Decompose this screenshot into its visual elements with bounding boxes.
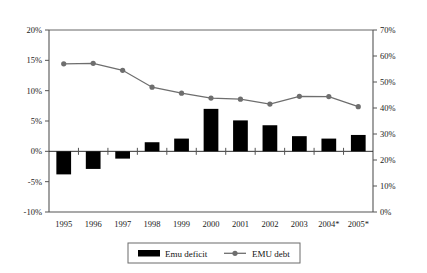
x-axis-label-2002: 2002 (261, 219, 278, 229)
right-axis-tick-label: 30% (380, 129, 396, 139)
debt-marker-2001 (238, 97, 243, 102)
debt-marker-2000 (208, 96, 213, 101)
x-axis-label-2001: 2001 (232, 219, 249, 229)
right-axis-tick-label: 10% (380, 181, 396, 191)
x-axis-label-2005-est: 2005* (348, 219, 369, 229)
x-axis-label-1997: 1997 (114, 219, 131, 229)
emu-deficit-debt-chart: 20%15%10%5%0%-5%-10%70%60%50%40%30%20%10… (0, 0, 427, 273)
x-axis-label-2000: 2000 (203, 219, 220, 229)
debt-marker-2004-est (326, 94, 331, 99)
right-axis-tick-label: 20% (380, 155, 396, 165)
chart-container: 20%15%10%5%0%-5%-10%70%60%50%40%30%20%10… (0, 0, 427, 273)
bar-1998 (145, 142, 160, 151)
x-axis-label-1995: 1995 (55, 219, 72, 229)
bar-2001 (233, 120, 248, 151)
legend-swatch-bar (138, 250, 160, 257)
left-axis-tick-label: 15% (26, 55, 42, 65)
chart-legend: Emu deficitEMU debt (128, 243, 300, 263)
bar-2004-est (321, 139, 336, 152)
x-axis-label-1999: 1999 (173, 219, 190, 229)
debt-marker-1995 (61, 61, 66, 66)
legend-label-emu-deficit: Emu deficit (165, 249, 208, 259)
left-axis-tick-label: -10% (24, 207, 42, 217)
bar-1996 (86, 151, 101, 169)
bar-2000 (204, 109, 219, 151)
left-axis-tick-label: 5% (31, 116, 42, 126)
bar-2002 (263, 125, 278, 151)
debt-marker-2005-est (356, 104, 361, 109)
debt-marker-1997 (120, 68, 125, 73)
left-axis-tick-label: 10% (26, 86, 42, 96)
right-axis-tick-label: 0% (380, 207, 391, 217)
x-axis-label-2004-est: 2004* (318, 219, 339, 229)
right-axis-tick-label: 50% (380, 77, 396, 87)
debt-marker-2002 (267, 102, 272, 107)
legend-swatch-marker (232, 251, 237, 256)
bar-1995 (56, 151, 71, 174)
left-axis-tick-label: 0% (31, 146, 42, 156)
right-axis-tick-label: 40% (380, 103, 396, 113)
debt-marker-1996 (91, 61, 96, 66)
debt-marker-1998 (149, 85, 154, 90)
debt-marker-1999 (179, 91, 184, 96)
debt-marker-2003 (297, 94, 302, 99)
right-axis-tick-label: 60% (380, 51, 396, 61)
x-axis-label-1996: 1996 (85, 219, 102, 229)
x-axis-label-2003: 2003 (291, 219, 308, 229)
bar-2005-est (351, 135, 366, 151)
bar-2003 (292, 136, 307, 151)
right-axis-tick-label: 70% (380, 25, 396, 35)
legend-label-emu-debt: EMU debt (252, 249, 290, 259)
bar-1997 (115, 151, 130, 158)
x-axis-label-1998: 1998 (144, 219, 161, 229)
bar-1999 (174, 139, 189, 152)
left-axis-tick-label: -5% (28, 177, 42, 187)
left-axis-tick-label: 20% (26, 25, 42, 35)
